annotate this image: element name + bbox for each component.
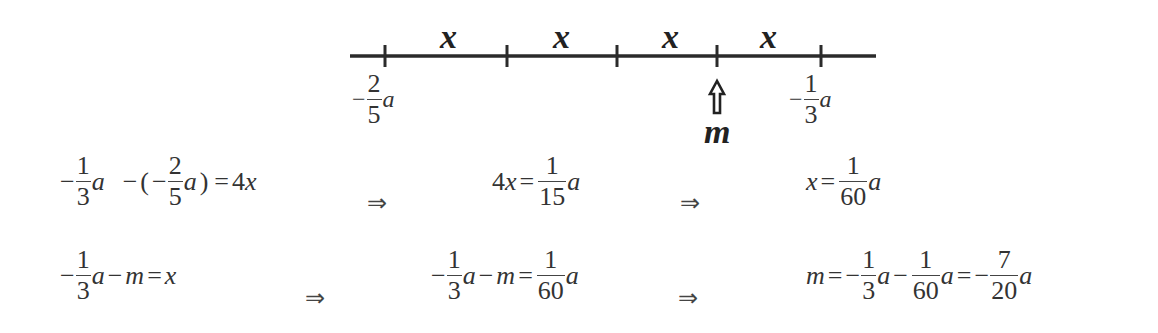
- numerator: 1: [543, 246, 558, 274]
- number-line: [0, 0, 1158, 150]
- minus-sign: −: [789, 86, 803, 113]
- variable: a: [567, 167, 580, 197]
- numerator: 2: [168, 152, 183, 180]
- variable: a: [820, 86, 832, 113]
- minus-sign: −: [974, 261, 989, 291]
- fraction: 1 3: [861, 246, 876, 305]
- open-paren: (: [140, 167, 149, 197]
- variable-m: m: [125, 261, 144, 291]
- minus-sign: −: [352, 86, 366, 113]
- fraction: 1 60: [537, 246, 565, 305]
- equals-sign: =: [821, 167, 836, 197]
- variable: a: [1019, 261, 1032, 291]
- minus-sign: −: [893, 261, 908, 291]
- equals-sign: =: [828, 261, 843, 291]
- numerator: 1: [76, 152, 91, 180]
- row1-step2: 4 x = 1 15 a: [492, 152, 580, 211]
- minus-sign: −: [123, 167, 138, 197]
- implies-arrow-icon: ⇒: [367, 191, 387, 215]
- variable: a: [877, 261, 890, 291]
- minus-sign: −: [479, 261, 494, 291]
- equals-sign: =: [957, 261, 972, 291]
- variable: x: [806, 167, 818, 197]
- denominator: 3: [76, 277, 91, 305]
- variable: a: [941, 261, 954, 291]
- numerator: 1: [918, 246, 933, 274]
- fraction: 1 15: [538, 152, 566, 211]
- denominator: 3: [861, 277, 876, 305]
- variable: x: [505, 167, 517, 197]
- fraction: 1 3: [76, 152, 91, 211]
- minus-sign: −: [60, 167, 75, 197]
- denominator: 15: [538, 183, 566, 211]
- implies-arrow-icon: ⇒: [680, 191, 700, 215]
- row2-step1: − 1 3 a − m = x: [60, 246, 176, 305]
- left-endpoint-label: − 2 5 a: [352, 70, 395, 129]
- equals-sign: =: [520, 167, 535, 197]
- numerator: 1: [545, 152, 560, 180]
- numerator: 1: [861, 246, 876, 274]
- minus-sign: −: [60, 261, 75, 291]
- variable: a: [868, 167, 881, 197]
- variable: a: [566, 261, 579, 291]
- denominator: 60: [912, 277, 940, 305]
- marker-label-m: m: [704, 115, 730, 149]
- fraction: 1 60: [912, 246, 940, 305]
- equals-sign: =: [518, 261, 533, 291]
- coefficient: 4: [492, 167, 505, 197]
- numerator: 2: [367, 70, 382, 98]
- up-arrow-icon: [710, 81, 724, 113]
- numerator: 1: [804, 70, 819, 98]
- row1-step3: x = 1 60 a: [806, 152, 881, 211]
- right-endpoint-label: − 1 3 a: [789, 70, 832, 129]
- denominator: 20: [990, 277, 1018, 305]
- variable: x: [165, 261, 177, 291]
- equals-sign: =: [214, 167, 229, 197]
- variable: x: [245, 167, 257, 197]
- segment-label-4: x: [760, 20, 777, 54]
- minus-sign: −: [845, 261, 860, 291]
- denominator: 60: [537, 277, 565, 305]
- fraction: 1 3: [76, 246, 91, 305]
- fraction: 1 3: [447, 246, 462, 305]
- denominator: 5: [168, 183, 183, 211]
- variable: a: [92, 167, 105, 197]
- fraction: 2 5: [367, 70, 382, 129]
- row1-step1: − 1 3 a − ( − 2 5 a ) = 4 x: [60, 152, 257, 211]
- denominator: 3: [447, 277, 462, 305]
- minus-sign: −: [108, 261, 123, 291]
- variable-m: m: [806, 261, 825, 291]
- variable: a: [92, 261, 105, 291]
- numerator: 7: [997, 246, 1012, 274]
- variable: a: [383, 86, 395, 113]
- variable: a: [184, 167, 197, 197]
- fraction: 1 60: [839, 152, 867, 211]
- segment-label-1: x: [440, 20, 457, 54]
- denominator: 3: [76, 183, 91, 211]
- equals-sign: =: [147, 261, 162, 291]
- fraction: 2 5: [168, 152, 183, 211]
- minus-sign: −: [152, 167, 167, 197]
- numerator: 1: [447, 246, 462, 274]
- minus-sign: −: [431, 261, 446, 291]
- segment-label-2: x: [553, 20, 570, 54]
- numerator: 1: [846, 152, 861, 180]
- numerator: 1: [76, 246, 91, 274]
- coefficient: 4: [232, 167, 245, 197]
- fraction: 1 3: [804, 70, 819, 129]
- fraction: 7 20: [990, 246, 1018, 305]
- row2-step3: m = − 1 3 a − 1 60 a = − 7 20 a: [806, 246, 1032, 305]
- denominator: 60: [839, 183, 867, 211]
- implies-arrow-icon: ⇒: [678, 286, 698, 310]
- row2-step2: − 1 3 a − m = 1 60 a: [431, 246, 579, 305]
- implies-arrow-icon: ⇒: [305, 286, 325, 310]
- segment-label-3: x: [662, 20, 679, 54]
- variable-m: m: [496, 261, 515, 291]
- denominator: 3: [804, 101, 819, 129]
- denominator: 5: [367, 101, 382, 129]
- close-paren: ): [200, 167, 209, 197]
- variable: a: [463, 261, 476, 291]
